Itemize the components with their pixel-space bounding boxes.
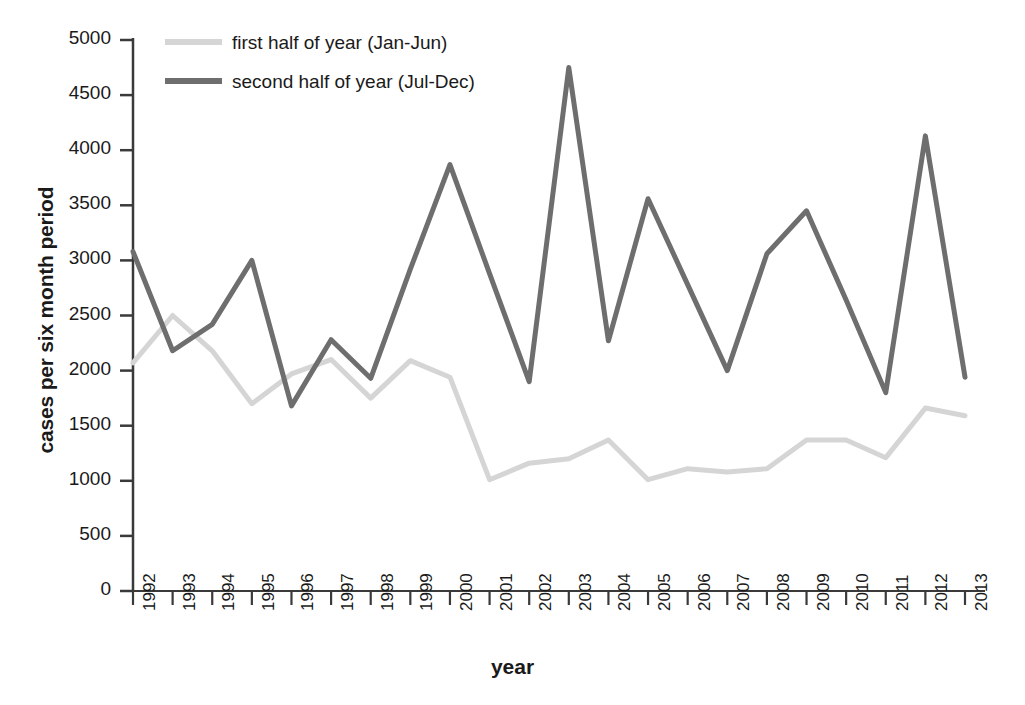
- x-tick-label: 1994: [219, 573, 239, 611]
- x-tick-label: 1999: [417, 573, 437, 611]
- legend-swatches: [165, 42, 222, 81]
- x-tick-label: 1996: [298, 573, 318, 611]
- legend-label-first-half: first half of year (Jan-Jun): [232, 32, 447, 54]
- y-axis-ticks: [120, 40, 133, 591]
- y-tick-label: 4500: [0, 82, 111, 104]
- x-tick-label: 2004: [615, 573, 635, 611]
- chart-series-lines: [133, 68, 965, 480]
- y-tick-label: 500: [0, 523, 111, 545]
- y-tick-label: 2000: [0, 358, 111, 380]
- y-tick-label: 3500: [0, 192, 111, 214]
- x-tick-label: 2007: [734, 573, 754, 611]
- x-tick-label: 2006: [695, 573, 715, 611]
- y-tick-label: 0: [0, 578, 111, 600]
- series-line-first-half: [133, 316, 965, 480]
- legend-label-second-half: second half of year (Jul-Dec): [232, 71, 475, 93]
- y-tick-label: 1500: [0, 413, 111, 435]
- y-tick-label: 2500: [0, 303, 111, 325]
- x-tick-label: 2005: [655, 573, 675, 611]
- x-tick-label: 1992: [140, 573, 160, 611]
- x-tick-label: 2011: [893, 574, 913, 611]
- x-tick-label: 2000: [457, 573, 477, 611]
- y-tick-label: 5000: [0, 27, 111, 49]
- series-line-second-half: [133, 68, 965, 406]
- x-tick-label: 2008: [774, 573, 794, 611]
- chart-container: cases per six month period year 05001000…: [0, 0, 1025, 705]
- x-tick-label: 2012: [932, 573, 952, 611]
- x-tick-label: 2009: [814, 573, 834, 611]
- x-tick-label: 1998: [378, 573, 398, 611]
- x-tick-label: 2010: [853, 573, 873, 611]
- x-tick-label: 2001: [497, 573, 517, 611]
- y-tick-label: 1000: [0, 468, 111, 490]
- x-tick-label: 2003: [576, 573, 596, 611]
- x-tick-label: 1995: [259, 573, 279, 611]
- x-tick-label: 1997: [338, 573, 358, 611]
- x-tick-label: 2002: [536, 573, 556, 611]
- x-tick-label: 2013: [972, 573, 992, 611]
- x-tick-label: 1993: [180, 573, 200, 611]
- y-tick-label: 4000: [0, 137, 111, 159]
- y-tick-label: 3000: [0, 247, 111, 269]
- x-axis-title: year: [0, 655, 1025, 679]
